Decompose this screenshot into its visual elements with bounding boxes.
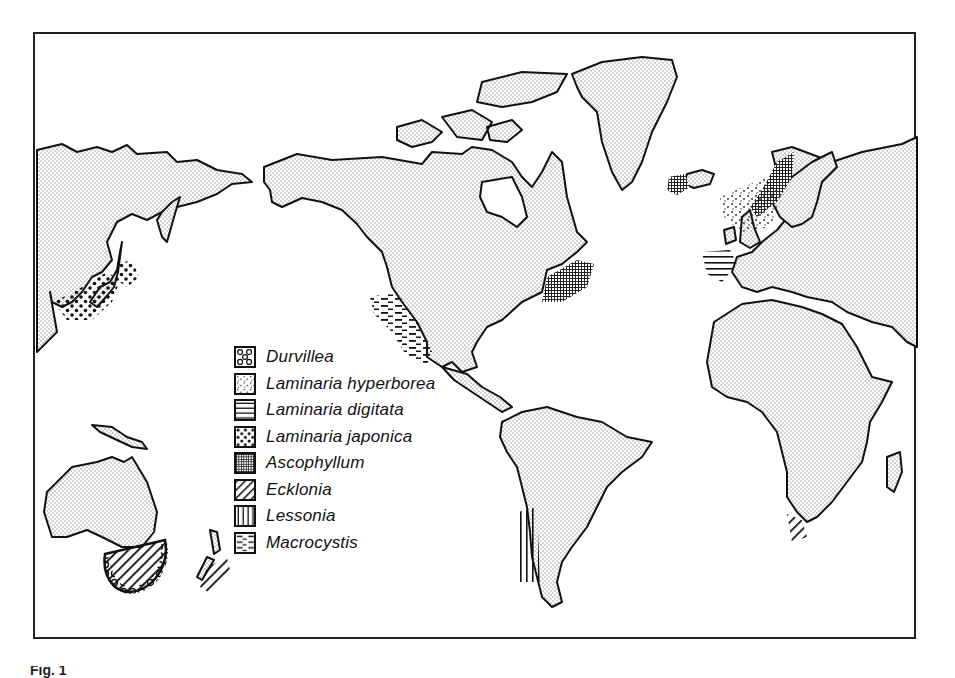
- greenland: [572, 57, 677, 190]
- legend-item-laminaria-hyperborea: Laminaria hyperborea: [234, 371, 435, 398]
- legend-item-lessonia: Lessonia: [234, 503, 435, 530]
- ascophyllum-pattern-icon: [234, 452, 256, 474]
- laminaria-hyperborea-japan: [117, 260, 139, 287]
- laminaria-hyperborea-pattern-icon: [234, 373, 256, 395]
- legend-label: Durvillea: [266, 347, 334, 367]
- legend: Durvillea Laminaria hyperborea Laminaria…: [234, 344, 435, 556]
- legend-item-macrocystis: Macrocystis: [234, 530, 435, 557]
- legend-label: Laminaria japonica: [266, 427, 412, 447]
- legend-item-ecklonia: Ecklonia: [234, 477, 435, 504]
- legend-item-ascophyllum: Ascophyllum: [234, 450, 435, 477]
- laminaria-japonica-pattern-icon: [234, 426, 256, 448]
- durvillea-pattern-icon: [234, 346, 256, 368]
- laminaria-digitata-iberia: [702, 250, 737, 282]
- north-america: [264, 147, 587, 372]
- legend-label: Macrocystis: [266, 533, 358, 553]
- world-map: [35, 34, 918, 641]
- laminaria-hyperborea-north-sea: [720, 177, 782, 232]
- australia: [44, 457, 157, 547]
- legend-label: Laminaria digitata: [266, 400, 404, 420]
- africa: [707, 300, 892, 522]
- asia-landmass: [37, 144, 252, 352]
- legend-item-durvillea: Durvillea: [234, 344, 435, 371]
- new-guinea: [92, 425, 147, 449]
- madagascar: [887, 452, 902, 492]
- legend-label: Ascophyllum: [266, 453, 365, 473]
- arctic-islands: [397, 72, 567, 147]
- legend-item-laminaria-japonica: Laminaria japonica: [234, 424, 435, 451]
- lessonia-pattern-icon: [234, 505, 256, 527]
- lessonia-chile: [518, 507, 540, 582]
- legend-item-laminaria-digitata: Laminaria digitata: [234, 397, 435, 424]
- legend-label: Ecklonia: [266, 480, 332, 500]
- laminaria-digitata-pattern-icon: [234, 399, 256, 421]
- legend-label: Laminaria hyperborea: [266, 374, 435, 394]
- macrocystis-pattern-icon: [234, 532, 256, 554]
- ecklonia-pattern-icon: [234, 479, 256, 501]
- legend-label: Lessonia: [266, 506, 336, 526]
- figure-caption: Fig. 1: [30, 662, 67, 678]
- central-america: [442, 367, 512, 412]
- map-frame: Durvillea Laminaria hyperborea Laminaria…: [33, 32, 916, 639]
